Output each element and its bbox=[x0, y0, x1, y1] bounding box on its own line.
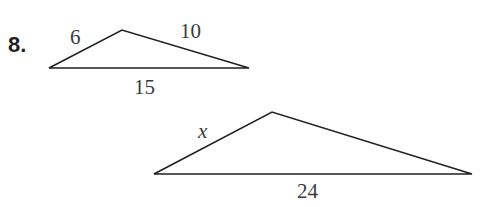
small-triangle-right-side-label: 10 bbox=[180, 19, 201, 43]
problem-number: 8. bbox=[8, 32, 26, 57]
large-triangle-left-side-label: x bbox=[197, 119, 208, 143]
large-triangle-base-label: 24 bbox=[297, 179, 319, 203]
large-triangle: x 24 bbox=[154, 112, 472, 203]
small-triangle-left-side-label: 6 bbox=[70, 25, 81, 49]
similar-triangles-diagram: 8. 6 10 15 x 24 bbox=[0, 0, 492, 207]
small-triangle-base-label: 15 bbox=[134, 75, 155, 99]
small-triangle: 6 10 15 bbox=[49, 19, 249, 99]
